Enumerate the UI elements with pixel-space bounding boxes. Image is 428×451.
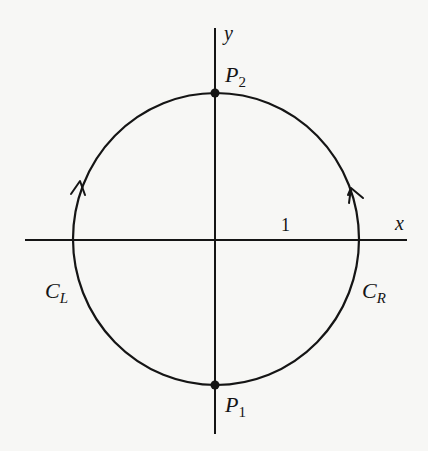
label-p2: P2 (224, 62, 246, 90)
contour-diagram: y x 1 P2 P1 CL CR (0, 0, 428, 451)
label-c-right: CR (362, 278, 386, 306)
tick-label-one: 1 (281, 215, 290, 235)
y-axis-label: y (222, 22, 233, 45)
label-c-left: CL (45, 278, 68, 306)
label-p1: P1 (224, 392, 246, 420)
arrow-up-icon-right (348, 188, 363, 203)
x-axis-label: x (394, 212, 404, 234)
point-p2 (211, 89, 220, 98)
point-p1 (211, 381, 220, 390)
